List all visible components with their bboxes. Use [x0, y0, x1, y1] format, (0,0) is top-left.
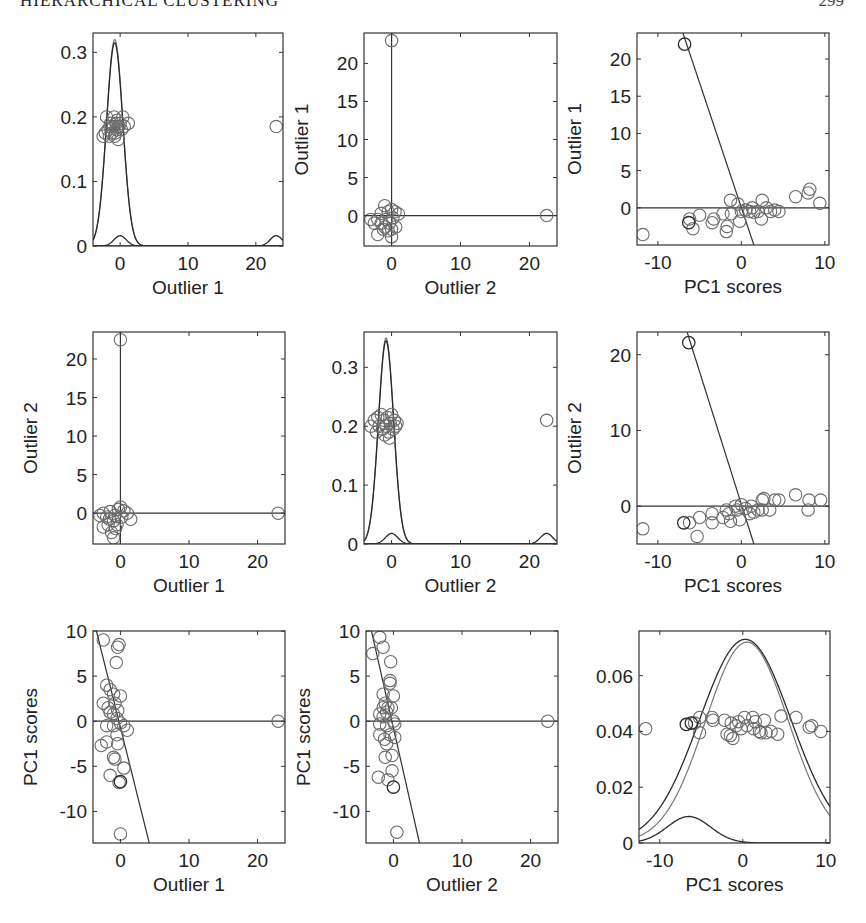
x-tick-label: 0 [115, 253, 126, 274]
plot-area [93, 631, 285, 843]
x-axis-label: Outlier 1 [152, 277, 224, 298]
density-curve [93, 40, 283, 246]
y-tick-label: 20 [610, 49, 631, 70]
data-point [773, 205, 785, 217]
chart-panel-r1c3: -1001005101520PC1 scoresOutlier 1 [564, 33, 835, 297]
y-tick-label: 0.06 [596, 666, 633, 687]
data-point [789, 489, 801, 501]
plot-area [364, 33, 557, 246]
x-axis-label: PC1 scores [685, 874, 783, 895]
x-axis-label: Outlier 1 [153, 874, 225, 895]
y-tick-label: 0 [347, 534, 358, 555]
y-axis-label: Outlier 2 [564, 402, 585, 474]
x-tick-label: 10 [178, 850, 199, 871]
data-point [384, 655, 396, 667]
y-tick-label: 0.04 [596, 721, 633, 742]
data-point [815, 725, 827, 737]
density-curve [639, 642, 830, 836]
data-point [724, 194, 736, 206]
x-tick-label: 0 [115, 850, 126, 871]
y-tick-label: 0 [76, 711, 87, 732]
chart-panel-r3c3: -1001000.020.040.06PC1 scores [596, 631, 836, 895]
y-tick-label: 0.1 [61, 171, 87, 192]
y-tick-label: 15 [66, 388, 87, 409]
density-curve [639, 639, 830, 829]
x-axis-label: Outlier 1 [153, 575, 225, 596]
chart-panel-r2c3: -1001001020PC1 scoresOutlier 2 [564, 332, 835, 596]
data-point [384, 674, 396, 686]
x-tick-label: 0 [386, 253, 397, 274]
data-point [391, 826, 403, 838]
chart-panel-r2c1: 0102005101520Outlier 1Outlier 2 [20, 332, 285, 596]
y-tick-label: 10 [339, 621, 360, 642]
data-point [803, 494, 815, 506]
x-axis-label: PC1 scores [684, 276, 782, 297]
y-axis-label: PC1 scores [293, 688, 314, 786]
scatterplot-matrix: 0102000.10.20.3Outlier 10102005101520Out… [0, 0, 866, 923]
y-tick-label: 0 [76, 236, 87, 257]
data-point [814, 494, 826, 506]
y-tick-label: 0.2 [332, 416, 358, 437]
y-tick-label: 15 [337, 91, 358, 112]
x-tick-label: 10 [177, 253, 198, 274]
data-point [790, 711, 802, 723]
x-tick-label: 20 [247, 551, 268, 572]
axis-frame [93, 631, 285, 843]
plot-area [637, 33, 829, 245]
x-tick-label: 20 [519, 253, 540, 274]
data-point [708, 213, 720, 225]
y-tick-label: 15 [610, 86, 631, 107]
plot-area [639, 639, 830, 843]
density-curve [364, 341, 557, 544]
data-point [718, 714, 730, 726]
y-tick-label: 10 [610, 123, 631, 144]
plot-area [366, 631, 558, 843]
x-tick-label: -10 [644, 252, 671, 273]
x-tick-label: 20 [247, 850, 268, 871]
y-tick-label: 5 [76, 666, 87, 687]
data-point [114, 828, 126, 840]
x-tick-label: 0 [736, 252, 747, 273]
y-tick-label: 10 [610, 420, 631, 441]
data-point [118, 762, 130, 774]
x-tick-label: -10 [646, 850, 673, 871]
y-tick-label: 0.3 [332, 357, 358, 378]
plot-area [93, 332, 285, 544]
chart-panel-r3c2: 01020-10-50510Outlier 2PC1 scores [293, 621, 558, 895]
data-point [270, 120, 282, 132]
y-tick-label: 0 [347, 206, 358, 227]
data-point [804, 183, 816, 195]
x-tick-label: 10 [814, 551, 835, 572]
y-tick-label: -5 [343, 756, 360, 777]
y-tick-label: 20 [66, 349, 87, 370]
y-tick-label: 20 [337, 53, 358, 74]
data-point [540, 414, 552, 426]
data-point [756, 194, 768, 206]
data-point [693, 511, 705, 523]
x-axis-label: PC1 scores [684, 575, 782, 596]
axis-frame [364, 332, 557, 544]
y-tick-label: 5 [620, 161, 631, 182]
y-tick-label: 10 [337, 130, 358, 151]
data-point [691, 530, 703, 542]
x-tick-label: 20 [520, 850, 541, 871]
axis-frame [366, 631, 558, 843]
chart-panel-r1c2: 0102005101520Outlier 2Outlier 1 [291, 33, 557, 298]
y-tick-label: -5 [70, 756, 87, 777]
y-tick-label: 5 [76, 465, 87, 486]
axis-frame [93, 33, 283, 246]
data-point [724, 515, 736, 527]
data-point [771, 728, 783, 740]
x-tick-label: 0 [386, 551, 397, 572]
y-tick-label: 0.2 [61, 107, 87, 128]
y-axis-label: Outlier 2 [20, 402, 41, 474]
density-curve [639, 817, 830, 844]
density-curve [364, 338, 557, 544]
x-tick-label: 0 [736, 551, 747, 572]
y-tick-label: 10 [66, 426, 87, 447]
data-point [637, 523, 649, 535]
data-point [693, 209, 705, 221]
y-tick-label: 0 [349, 711, 360, 732]
y-tick-label: 20 [610, 345, 631, 366]
y-axis-label: PC1 scores [20, 688, 41, 786]
